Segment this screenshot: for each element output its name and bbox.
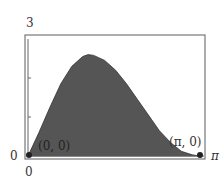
x-tick-label-0: 0 [25,166,33,178]
y-tick-label-3: 3 [26,17,34,29]
annotation-pi: (π, 0) [169,136,202,148]
y-tick-label-0: 0 [10,150,18,162]
point-origin-marker [26,152,32,158]
x-tick-label-pi: π [211,150,219,162]
annotation-origin: (0, 0) [38,140,70,152]
point-pi-marker [197,152,203,158]
